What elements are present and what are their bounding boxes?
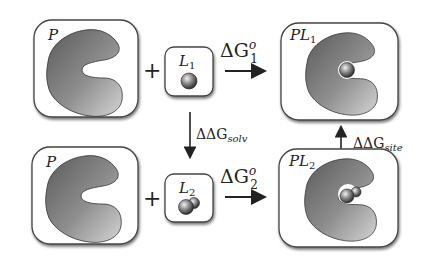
bound-ligand1-icon [340,63,355,78]
protein-label-bottom: P [45,153,57,171]
ligand2-box [165,174,213,222]
plus-sign-top: + [143,58,161,83]
plus-sign-bottom: + [143,186,161,211]
thermodynamic-cycle-diagram: P + L1 ΔGo1 PL1 ΔΔGsolv ΔΔGsite P + L2 Δ… [0,0,444,266]
binding2-label: ΔGo2 [220,164,258,192]
solvation-label: ΔΔGsolv [196,126,248,144]
ligand1-sphere-icon [181,73,197,89]
binding1-label: ΔGo1 [220,38,258,66]
protein-label-top: P [47,26,59,44]
